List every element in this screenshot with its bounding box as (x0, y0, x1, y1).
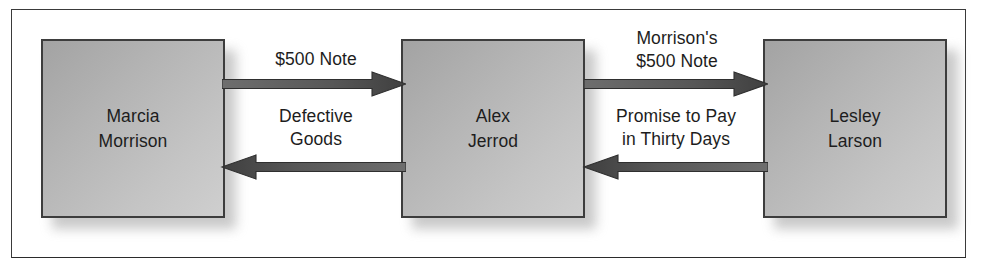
node-lesley-larson[interactable]: Lesley Larson (763, 39, 947, 218)
flow-diagram-figure: Marcia Morrison Alex Jerrod Lesley Larso… (0, 0, 986, 272)
node-label-marcia-morrison: Marcia Morrison (99, 104, 168, 154)
arrow-left-alex-to-marcia (218, 153, 406, 181)
node-marcia-morrison[interactable]: Marcia Morrison (41, 39, 225, 218)
node-label-lesley-larson: Lesley Larson (828, 104, 882, 154)
node-label-alex-jerrod: Alex Jerrod (468, 104, 518, 154)
edge-label-alex-to-marcia: Defective Goods (226, 105, 406, 151)
edge-label-alex-to-lesley: Morrison's $500 Note (584, 27, 770, 73)
edge-label-lesley-to-alex: Promise to Pay in Thirty Days (580, 105, 772, 151)
arrow-right-alex-to-lesley (584, 70, 768, 98)
arrow-right-marcia-to-alex (222, 70, 406, 98)
node-alex-jerrod[interactable]: Alex Jerrod (401, 39, 585, 218)
cropped-caption-remnant (214, 0, 334, 2)
edge-label-marcia-to-alex: $500 Note (226, 48, 406, 71)
arrow-left-lesley-to-alex (580, 153, 768, 181)
